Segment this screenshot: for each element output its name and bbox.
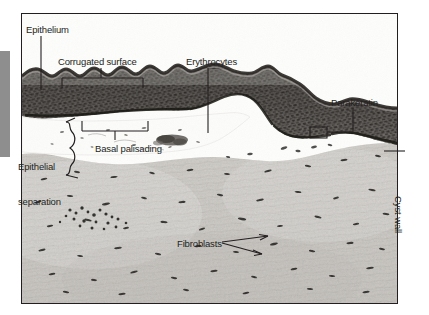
label-epithelial-separation-line1: Epithelial	[18, 161, 61, 173]
page-margin-bar	[0, 51, 10, 157]
label-parakeratin: Parakeratin	[331, 97, 378, 109]
label-cyst-wall: Cyst wall	[393, 196, 404, 233]
label-corrugated-surface: Corrugated surface	[58, 56, 137, 68]
label-epithelial-separation-line2: separation	[18, 196, 61, 208]
figure-root: Epithelium Corrugated surface Erythrocyt…	[0, 0, 429, 315]
label-basal-palisading: Basal palisading	[95, 143, 162, 155]
label-epithelium: Epithelium	[26, 24, 69, 36]
label-erythrocytes: Erythrocytes	[186, 56, 237, 68]
label-fibroblasts: Fibroblasts	[177, 238, 222, 250]
label-epithelial-separation: Epithelial separation	[18, 138, 61, 230]
